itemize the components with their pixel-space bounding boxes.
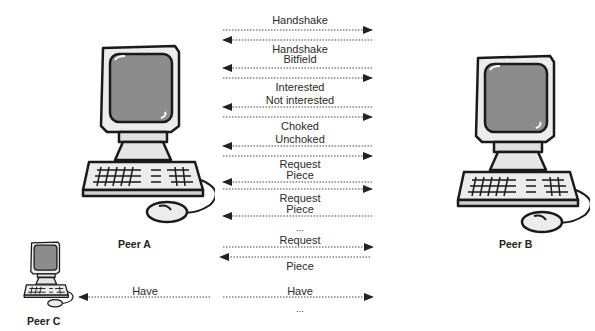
msg-have-b: Have	[278, 285, 322, 297]
msg-piece-2: Piece	[268, 203, 332, 215]
msg-ellipsis-2: ...	[278, 303, 322, 315]
msg-request-3: Request	[268, 234, 332, 246]
peer-b-label: Peer B	[499, 238, 532, 250]
msg-piece-1: Piece	[268, 169, 332, 181]
msg-choked: Choked	[268, 120, 332, 132]
msg-unchoked: Unchoked	[268, 133, 332, 145]
msg-interested: Interested	[258, 81, 342, 93]
peer-c-label: Peer C	[27, 315, 60, 327]
msg-piece-3: Piece	[268, 260, 332, 272]
msg-not-interested: Not interested	[250, 94, 350, 106]
msg-handshake-1: Handshake	[268, 14, 332, 26]
msg-have-c: Have	[125, 285, 165, 297]
peer-a-label: Peer A	[118, 238, 151, 250]
msg-ellipsis-1: ...	[268, 222, 332, 234]
msg-bitfield: Bitfield	[268, 53, 332, 65]
